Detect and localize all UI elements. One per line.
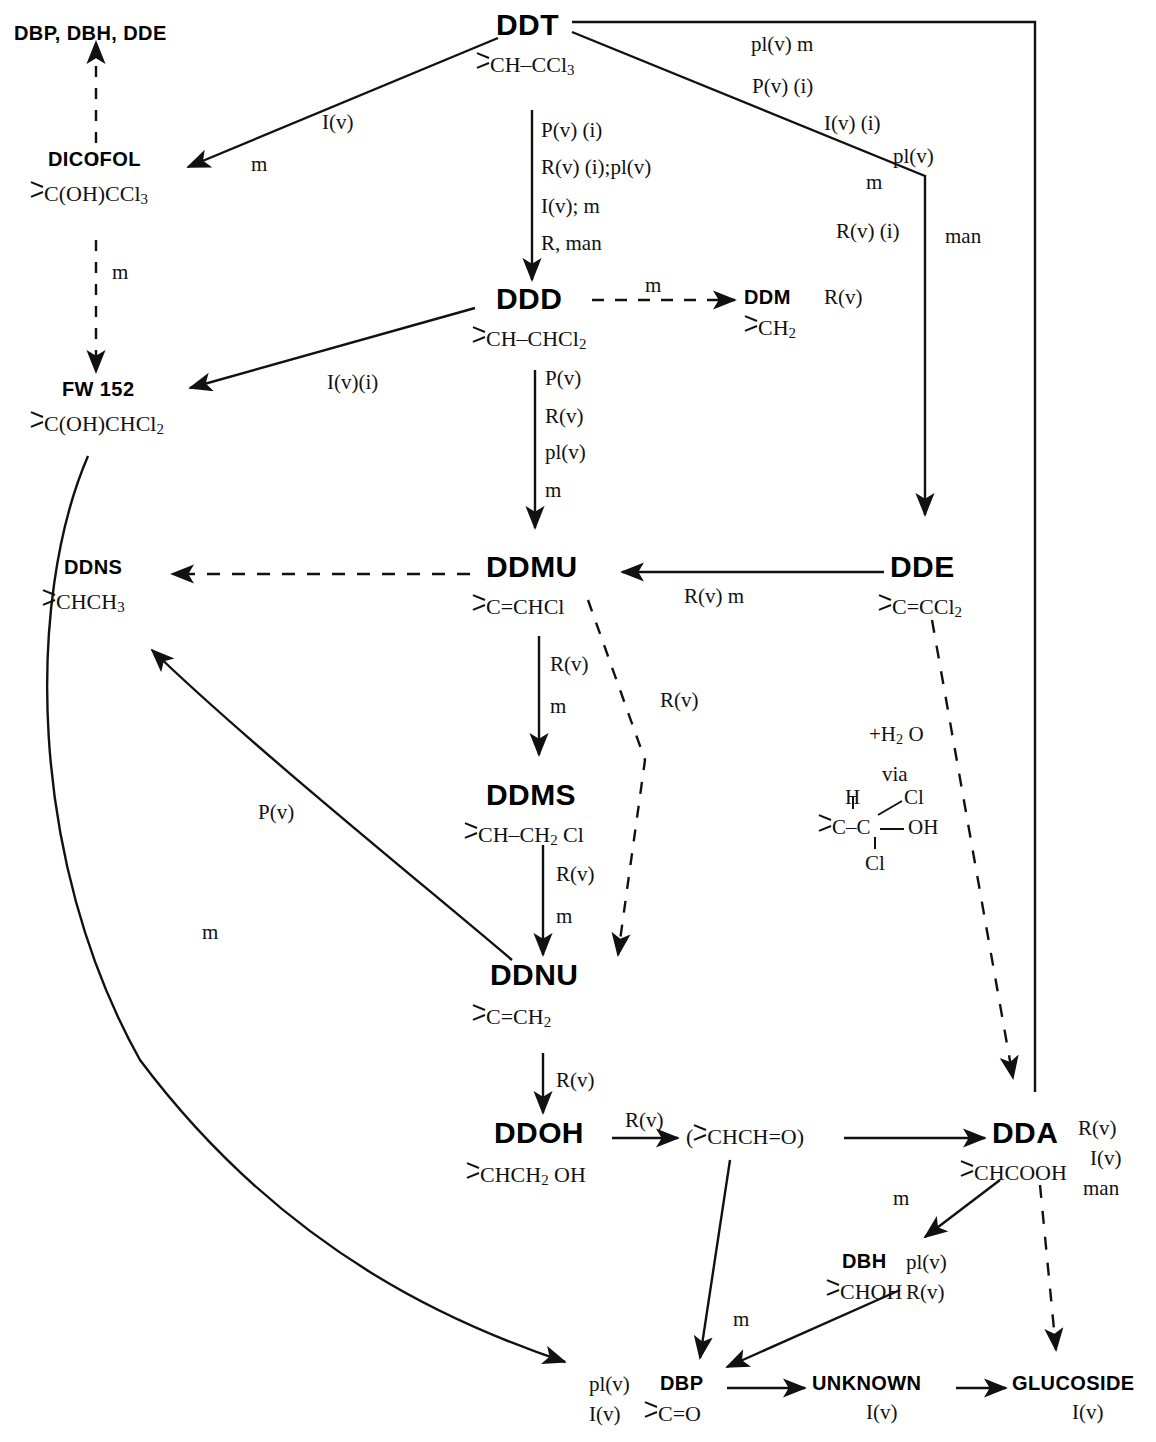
edge-label-ddt-ddd-1: P(v) (i) — [541, 118, 602, 143]
node-dbh[interactable]: DBH CHOH — [842, 1250, 902, 1305]
edge-label-ddd-ddmu-4: m — [545, 478, 561, 503]
edge-label-dbp-left-2: I(v) — [589, 1402, 620, 1427]
edge-label-ddt-right-2: P(v) (i) — [752, 74, 813, 99]
node-label: DDA — [992, 1116, 1067, 1150]
bond-bracket-icon — [476, 50, 490, 72]
node-label: DDNS — [64, 556, 125, 579]
edge-dda-dbh — [925, 1180, 1000, 1237]
structure-bonds — [818, 785, 998, 895]
edge-label-ddt-right-1: pl(v) m — [751, 32, 813, 57]
edge-label-ddt-ddd-3: I(v); m — [541, 194, 600, 219]
bond-bracket-icon — [693, 1122, 707, 1144]
edge-label-dde-dda-1: +H2 O — [869, 722, 924, 748]
edge-label-dda-side-3: man — [1083, 1176, 1119, 1201]
dde-hydrolysis-structure: H Cl C–C OH Cl — [818, 785, 998, 895]
edge-label-ddt-dicofol-2: m — [251, 152, 267, 177]
node-dde[interactable]: DDE C=CCl2 — [890, 550, 962, 621]
node-ddms[interactable]: DDMS CH–CH2 Cl — [486, 778, 584, 849]
edge-label-unknown-sub: I(v) — [866, 1400, 897, 1425]
node-formula: CH–CCl3 — [476, 50, 575, 79]
node-formula: CHCH2 OH — [466, 1160, 586, 1189]
node-dda[interactable]: DDA CHCOOH — [992, 1116, 1067, 1186]
edge-label-ddms-ddnu-2: m — [556, 904, 572, 929]
edge-ddt-dda-line — [572, 22, 1035, 1092]
bond-bracket-icon — [30, 409, 44, 431]
node-label: DBP, DBH, DDE — [14, 22, 167, 45]
node-ddnu[interactable]: DDNU C=CH2 — [490, 958, 578, 1031]
edge-aldehyde-dbp — [700, 1160, 730, 1358]
edge-label-dde-ddmu: R(v) m — [684, 584, 744, 609]
edge-label-ddnu-ddoh: R(v) — [556, 1068, 595, 1093]
edge-label-ddd-fw152: I(v)(i) — [327, 370, 378, 395]
node-ddt[interactable]: DDT CH–CCl3 — [496, 8, 575, 79]
edge-label-ddt-right-5: m — [866, 170, 882, 195]
node-formula: (CHCH=O) — [686, 1122, 804, 1150]
node-ddoh[interactable]: DDOH CHCH2 OH — [494, 1116, 586, 1189]
edge-label-ddmu-ddms-2: m — [550, 694, 566, 719]
edge-ddt-dde — [572, 32, 925, 515]
bond-bracket-icon — [472, 592, 486, 614]
edge-label-ddt-right-6: R(v) (i) — [836, 219, 900, 244]
node-label: GLUCOSIDE — [1012, 1372, 1135, 1395]
node-formula: C(OH)CCl3 — [30, 179, 148, 208]
node-label: DBH — [842, 1250, 902, 1273]
node-glucoside[interactable]: GLUCOSIDE — [1012, 1372, 1135, 1395]
node-ddmu[interactable]: DDMU C=CHCl — [486, 550, 578, 620]
node-dbp[interactable]: DBP C=O — [660, 1372, 703, 1427]
edge-label-dda-dbh: m — [893, 1186, 909, 1211]
edge-label-ddd-ddmu-1: P(v) — [545, 366, 581, 391]
edge-dda-glucoside — [1040, 1185, 1056, 1350]
node-formula: C=CH2 — [472, 1002, 578, 1031]
node-label: DDNU — [490, 958, 578, 992]
edge-label-ddoh-aldehyde: R(v) — [625, 1108, 664, 1133]
edge-ddt-dicofol — [188, 38, 498, 167]
node-label: DDOH — [494, 1116, 586, 1150]
bond-bracket-icon — [42, 587, 56, 609]
node-ddd[interactable]: DDD CH–CHCl2 — [496, 282, 586, 353]
node-label: DDT — [496, 8, 575, 42]
node-aldehyde[interactable]: (CHCH=O) — [686, 1122, 804, 1150]
node-formula: CHCH3 — [42, 587, 125, 616]
edge-label-dbh-side-2: R(v) — [906, 1280, 945, 1305]
edge-label-ddt-right-7: man — [945, 224, 981, 249]
edge-label-dbh-dbp: m — [733, 1307, 749, 1332]
node-unknown[interactable]: UNKNOWN — [812, 1372, 921, 1395]
node-dbp-dbh-dde-top[interactable]: DBP, DBH, DDE — [14, 22, 167, 45]
bond-bracket-icon — [472, 324, 486, 346]
bond-bracket-icon — [466, 1160, 480, 1182]
edge-label-ddt-ddd-2: R(v) (i);pl(v) — [541, 155, 651, 180]
node-formula: CHCOOH — [960, 1158, 1067, 1186]
pathway-diagram-canvas: DBP, DBH, DDE DDT CH–CCl3 DICOFOL C(OH)C… — [0, 0, 1156, 1442]
node-label: UNKNOWN — [812, 1372, 921, 1395]
node-label: DBP — [660, 1372, 703, 1395]
edge-label-dda-side-2: I(v) — [1090, 1146, 1121, 1171]
edge-label-ddmu-ddms-1: R(v) — [550, 652, 589, 677]
edge-label-ddms-ddnu-1: R(v) — [556, 862, 595, 887]
node-label: DDD — [496, 282, 586, 316]
node-dicofol[interactable]: DICOFOL C(OH)CCl3 — [48, 148, 148, 208]
bond-bracket-icon — [464, 820, 478, 842]
edge-label-ddt-ddd-4: R, man — [541, 231, 602, 256]
bond-bracket-icon — [644, 1399, 658, 1421]
bond-bracket-icon — [878, 592, 892, 614]
bond-bracket-icon — [472, 1002, 486, 1024]
node-ddm[interactable]: DDM CH2 — [744, 286, 796, 342]
node-formula: C(OH)CHCl2 — [30, 409, 164, 438]
bond-bracket-icon — [826, 1277, 840, 1299]
node-ddns[interactable]: DDNS CHCH3 — [64, 556, 125, 616]
edge-label-fw152-dbp: m — [202, 920, 218, 945]
edge-label-dda-side-1: R(v) — [1078, 1116, 1117, 1141]
edge-label-glucoside-sub: I(v) — [1072, 1400, 1103, 1425]
edge-label-ddd-ddmu-2: R(v) — [545, 404, 584, 429]
node-fw152[interactable]: FW 152 C(OH)CHCl2 — [62, 378, 164, 438]
edge-label-ddmu-ddnu: R(v) — [660, 688, 699, 713]
node-label: DDMU — [486, 550, 578, 584]
edge-label-ddnu-ddns: P(v) — [258, 800, 294, 825]
edge-label-ddm-side: R(v) — [824, 285, 863, 310]
node-formula: CH–CH2 Cl — [464, 820, 584, 849]
bond-bracket-icon — [744, 313, 758, 335]
node-label: FW 152 — [62, 378, 164, 401]
node-formula: C=CHCl — [472, 592, 578, 620]
node-label: DDM — [744, 286, 796, 309]
node-formula: CH2 — [744, 313, 796, 342]
